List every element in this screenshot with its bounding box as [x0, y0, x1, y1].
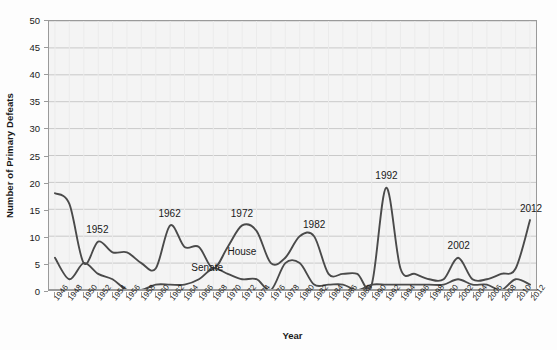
y-tick-label: 20 [29, 177, 40, 188]
peak-annotation: 2002 [448, 240, 470, 251]
y-axis-title-text: Number of Primary Defeats [4, 93, 15, 218]
y-tick-label: 30 [29, 123, 40, 134]
y-tick-mark [44, 237, 48, 238]
y-tick-mark [44, 47, 48, 48]
chart-container: Number of Primary Defeats 05101520253035… [0, 0, 557, 350]
peak-annotation: 2012 [520, 203, 542, 214]
y-tick-mark [44, 128, 48, 129]
peak-annotation: 1982 [303, 219, 325, 230]
x-axis-title: Year [48, 330, 537, 341]
y-tick-label: 50 [29, 15, 40, 26]
y-tick-label: 10 [29, 231, 40, 242]
y-tick-label: 45 [29, 42, 40, 53]
y-tick-mark [44, 74, 48, 75]
peak-annotation: 1972 [231, 208, 253, 219]
y-tick-label: 25 [29, 150, 40, 161]
y-tick-mark [44, 156, 48, 157]
y-axis-tick-labels: 05101520253035404550 [22, 0, 44, 350]
y-tick-label: 15 [29, 204, 40, 215]
series-label-house: House [227, 246, 256, 257]
y-tick-label: 0 [35, 286, 40, 297]
y-tick-label: 40 [29, 69, 40, 80]
y-tick-mark [44, 20, 48, 21]
peak-annotation: 1962 [159, 208, 181, 219]
y-tick-mark [44, 291, 48, 292]
y-tick-mark [44, 210, 48, 211]
series-label-senate: Senate [191, 262, 223, 273]
y-tick-label: 35 [29, 96, 40, 107]
series-line-house [55, 188, 530, 290]
y-tick-mark [44, 101, 48, 102]
y-tick-label: 5 [35, 258, 40, 269]
peak-annotation: 1992 [375, 170, 397, 181]
y-tick-mark [44, 264, 48, 265]
y-tick-mark [44, 183, 48, 184]
y-axis-title: Number of Primary Defeats [0, 0, 20, 310]
peak-annotation: 1952 [86, 224, 108, 235]
